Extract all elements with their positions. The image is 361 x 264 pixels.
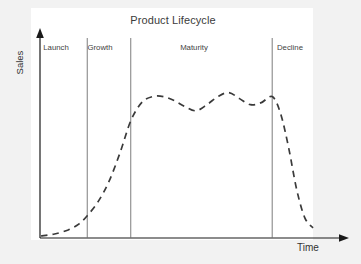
chart-canvas	[0, 0, 361, 264]
x-axis-arrow-icon	[339, 234, 349, 242]
y-axis-arrow-icon	[36, 28, 44, 38]
stage-divider-group	[87, 38, 272, 238]
product-lifecycle-figure: Product Lifecycle Sales Time Launch Grow…	[0, 0, 361, 264]
